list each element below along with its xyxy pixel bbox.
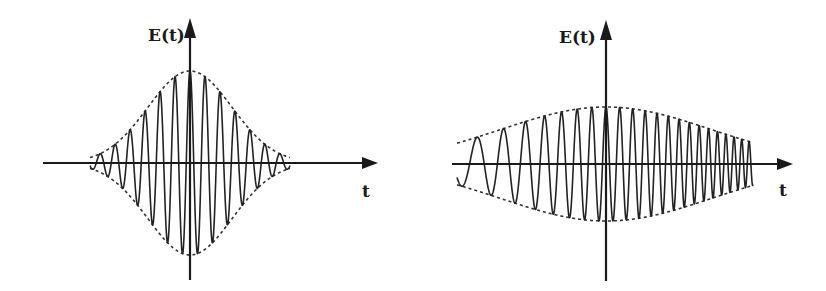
x-axis-arrow-icon <box>362 157 378 169</box>
x-axis-arrow-icon <box>777 158 793 170</box>
y-axis-label: E(t) <box>148 25 185 45</box>
y-axis-arrow-icon <box>184 18 196 38</box>
panel-chirped-pulse: E(t) t <box>452 20 793 281</box>
panel-short-pulse: E(t) t <box>43 18 378 280</box>
x-axis-label: t <box>362 181 370 201</box>
x-axis-label: t <box>779 180 787 200</box>
y-axis-label: E(t) <box>559 27 596 47</box>
y-axis-arrow-icon <box>600 20 612 40</box>
pulse-diagram: E(t) t E(t) t <box>0 0 826 291</box>
